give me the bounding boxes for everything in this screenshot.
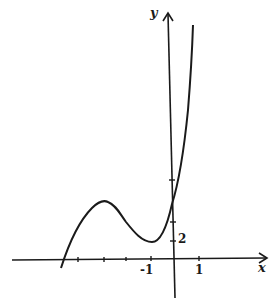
y-axis-label: y	[149, 5, 159, 20]
y-tick-label-2: 2	[178, 232, 186, 246]
y-axis	[163, 13, 175, 298]
x-tick-label-neg1: -1	[140, 263, 153, 277]
function-graph: y x -1 1 2	[0, 0, 278, 304]
x-axis	[12, 253, 267, 263]
x-tick-label-1: 1	[195, 263, 203, 277]
x-axis-label: x	[257, 260, 266, 275]
